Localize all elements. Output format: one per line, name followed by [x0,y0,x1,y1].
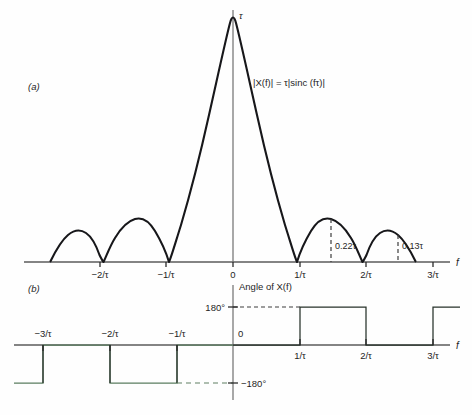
panel-b-xtick-label-pos1: 1/τ [294,350,306,361]
panel-a-group: τ |X(f)| = τ|sinc (fτ)| 0.22τ 0.13τ −2/τ… [24,10,460,280]
panel-a-xtick-label-zero: 0 [230,269,235,280]
panel-b-xtick-label-neg2: −2/τ [101,328,118,339]
panel-b-group: 180° 0 −180° Angle of X(f) −3/τ −2/τ −1/… [14,281,460,400]
phase-step-negative [14,345,233,383]
sidelobe-1-label: 0.22τ [335,241,357,251]
panel-a-label: (a) [28,81,40,92]
panel-b-xtick-label-neg3: −3/τ [34,328,51,339]
panel-a-xtick-label-pos2: 2/τ [360,269,372,280]
panel-b-xtick-label-pos2: 2/τ [360,350,372,361]
amplitude-formula-label: |X(f)| = τ|sinc (fτ)| [253,77,325,88]
sidelobe-2-label: 0.13τ [402,241,424,251]
spectrum-figure-svg: τ |X(f)| = τ|sinc (fτ)| 0.22τ 0.13τ −2/τ… [0,0,472,415]
phase-step-positive [233,307,460,345]
panel-b-xtick-label-pos3: 3/τ [427,350,439,361]
figure-container: τ |X(f)| = τ|sinc (fτ)| 0.22τ 0.13τ −2/τ… [0,0,472,415]
panel-a-xtick-label-neg1: −1/τ [157,269,174,280]
panel-a-xtick-label-pos1: 1/τ [294,269,306,280]
panel-a-xticks [100,262,433,267]
phase-pos-level-label: 180° [205,302,225,313]
phase-title-label: Angle of X(f) [239,281,292,292]
panel-b-xtick-label-neg1: −1/τ [168,328,185,339]
panel-b-label: (b) [28,283,40,294]
phase-neg-level-label: −180° [241,378,266,389]
phase-zero-level-label: 0 [238,328,243,339]
panel-a-xtick-label-neg2: −2/τ [91,269,108,280]
panel-b-axis-label-f: f [456,340,460,351]
panel-a-peak-label: τ [239,10,244,21]
panel-a-axis-label-f: f [456,257,460,268]
panel-a-xtick-label-pos3: 3/τ [427,269,439,280]
